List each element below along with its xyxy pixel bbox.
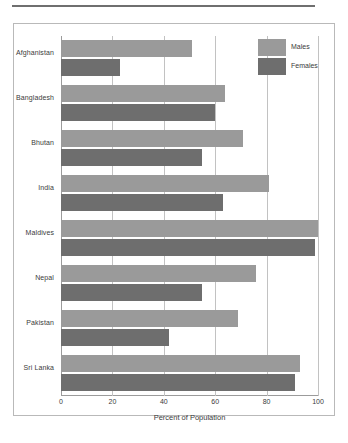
category-label: Maldives xyxy=(26,229,54,236)
category-label: Nepal xyxy=(35,274,54,281)
bar-males xyxy=(61,220,318,237)
x-tick-label: 0 xyxy=(59,398,63,405)
bar-group: India xyxy=(61,171,318,216)
top-divider-rule xyxy=(12,5,315,7)
plot-area: AfghanistanBangladeshBhutanIndiaMaldives… xyxy=(61,36,318,396)
category-label: Sri Lanka xyxy=(24,364,54,371)
bar-males xyxy=(61,355,300,372)
category-label: Bangladesh xyxy=(16,94,54,101)
bar-males xyxy=(61,85,225,102)
chart-legend: Males Females xyxy=(258,39,334,79)
bar-males xyxy=(61,130,243,147)
x-tick-label: 80 xyxy=(263,398,271,405)
bar-group: Bhutan xyxy=(61,126,318,171)
bar-group: Maldives xyxy=(61,216,318,261)
x-tick-label: 60 xyxy=(211,398,219,405)
legend-swatch-females-icon xyxy=(258,58,286,75)
bar-group: Nepal xyxy=(61,261,318,306)
legend-item-males: Males xyxy=(258,39,334,56)
bar-males xyxy=(61,175,269,192)
bar-females xyxy=(61,329,169,346)
x-axis-title: Percent of Population xyxy=(61,413,318,422)
x-tick-label: 100 xyxy=(312,398,324,405)
x-tick-label: 20 xyxy=(108,398,116,405)
legend-label-males: Males xyxy=(291,43,310,50)
bar-females xyxy=(61,149,202,166)
bar-females xyxy=(61,194,223,211)
bar-males xyxy=(61,40,192,57)
bar-males xyxy=(61,265,256,282)
x-tick-label: 40 xyxy=(160,398,168,405)
category-label: Afghanistan xyxy=(16,49,54,56)
chart-frame: AfghanistanBangladeshBhutanIndiaMaldives… xyxy=(13,23,335,416)
legend-swatch-males-icon xyxy=(258,39,286,56)
legend-label-females: Females xyxy=(291,62,318,69)
bar-females xyxy=(61,104,215,121)
bar-group: Pakistan xyxy=(61,306,318,351)
legend-item-females: Females xyxy=(258,58,334,75)
bar-females xyxy=(61,374,295,391)
bar-group: Bangladesh xyxy=(61,81,318,126)
bar-group: Sri Lanka xyxy=(61,351,318,396)
category-label: India xyxy=(38,184,54,191)
bar-females xyxy=(61,59,120,76)
bar-males xyxy=(61,310,238,327)
category-label: Pakistan xyxy=(26,319,54,326)
gridline xyxy=(318,36,319,396)
bar-females xyxy=(61,284,202,301)
bar-females xyxy=(61,239,315,256)
category-label: Bhutan xyxy=(31,139,54,146)
